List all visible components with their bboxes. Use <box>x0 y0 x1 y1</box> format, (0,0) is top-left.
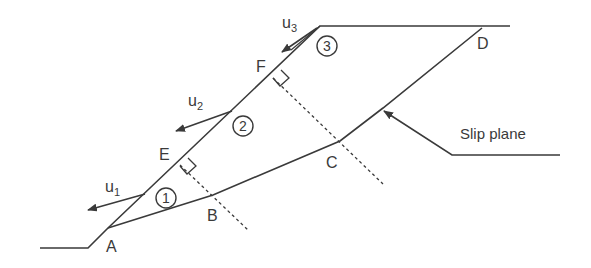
ground-profile <box>40 26 510 248</box>
point-label-a: A <box>106 238 117 255</box>
svg-text:3: 3 <box>323 38 331 54</box>
wedge-3-label: 3 <box>317 36 337 56</box>
point-label-b: B <box>207 207 218 224</box>
right-angle-marker-f <box>273 70 289 86</box>
force-label-u3: u3 <box>282 14 297 34</box>
wedge-1-label: 1 <box>156 188 176 208</box>
svg-text:1: 1 <box>162 190 170 206</box>
point-label-f: F <box>256 58 266 75</box>
force-arrow-u2 <box>176 111 232 131</box>
force-label-u2: u2 <box>188 92 203 112</box>
force-label-u1: u1 <box>105 178 120 198</box>
point-label-d: D <box>477 35 489 52</box>
svg-text:2: 2 <box>239 118 247 134</box>
point-label-e: E <box>159 146 170 163</box>
right-angle-marker-e <box>180 158 196 174</box>
force-arrow-u3 <box>282 28 317 52</box>
slope-diagram: 1 2 3 A B C D E F u1 u2 u3 Slip plane <box>0 0 591 268</box>
wedge-2-label: 2 <box>233 116 253 136</box>
slip-plane-label: Slip plane <box>460 125 526 142</box>
point-label-c: C <box>326 154 338 171</box>
